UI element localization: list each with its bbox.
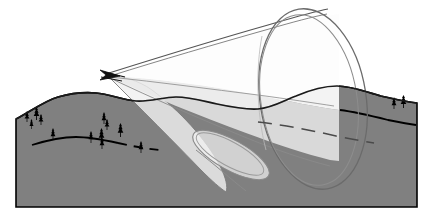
diagram-canvas <box>0 0 425 221</box>
cone-terrain-illustration <box>0 0 425 221</box>
